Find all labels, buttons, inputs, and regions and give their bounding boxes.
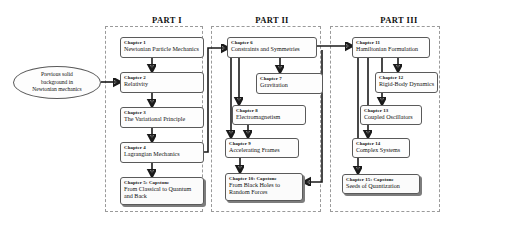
part-title-2: PART II (255, 15, 289, 25)
node-chapter-3[interactable]: Chapter 3 The Variational Principle (120, 107, 204, 128)
node-chapter-4[interactable]: Chapter 4 Lagrangian Mechanics (120, 142, 204, 163)
chapter-3-label: Chapter 3 (124, 110, 200, 116)
chapter-4-title: Lagrangian Mechanics (124, 151, 200, 158)
node-previous-background[interactable]: Previous solid background in Newtonian m… (13, 66, 101, 99)
node-chapter-1[interactable]: Chapter 1 Newtonian Particle Mechanics (120, 37, 204, 58)
chapter-2-title: Relativity (124, 81, 200, 88)
part-title-3: PART III (380, 15, 417, 25)
chapter-7-title: Gravitation (260, 82, 319, 89)
chapter-9-title: Accelerating Frames (229, 147, 295, 154)
chapter-2-label: Chapter 2 (124, 75, 200, 81)
chapter-10-label: Chapter 10: Capstone (229, 176, 299, 182)
node-chapter-8[interactable]: Chapter 8 Electromagnetism (232, 105, 306, 125)
chapter-1-label: Chapter 1 (124, 40, 200, 46)
node-chapter-13[interactable]: Chapter 13 Coupled Oscillators (360, 105, 422, 125)
chapter-8-label: Chapter 8 (236, 108, 302, 114)
node-chapter-5[interactable]: Chapter 5: Capstone From Classical to Qu… (120, 177, 204, 205)
chapter-5-title: From Classical to Quantum and Back (124, 186, 200, 200)
chapter-6-label: Chapter 6 (231, 40, 313, 46)
node-chapter-7[interactable]: Chapter 7 Gravitation (256, 73, 323, 94)
chapter-5-label: Chapter 5: Capstone (124, 180, 200, 186)
chapter-7-label: Chapter 7 (260, 76, 319, 82)
part-title-1: PART I (152, 15, 182, 25)
chapter-6-title: Constraints and Symmetries (231, 46, 313, 53)
chapter-11-title: Hamiltonian Formulation (356, 46, 426, 53)
chapter-11-label: Chapter 11 (356, 40, 426, 46)
chapter-15-label: Chapter 15: Capstone (346, 177, 416, 183)
chapter-12-label: Chapter 12 (379, 75, 434, 81)
chapter-13-label: Chapter 13 (364, 108, 418, 114)
flowchart-canvas: PART I PART II PART III (0, 0, 509, 227)
node-chapter-10[interactable]: Chapter 10: Capstone From Black Holes to… (225, 173, 303, 201)
chapter-9-label: Chapter 9 (229, 141, 295, 147)
entry-line-2: background in (41, 79, 73, 85)
node-chapter-9[interactable]: Chapter 9 Accelerating Frames (225, 138, 299, 158)
chapter-1-title: Newtonian Particle Mechanics (124, 46, 200, 53)
chapter-15-title: Seeds of Quantization (346, 183, 416, 190)
node-chapter-11[interactable]: Chapter 11 Hamiltonian Formulation (352, 37, 430, 58)
chapter-8-title: Electromagnetism (236, 114, 302, 121)
node-chapter-6[interactable]: Chapter 6 Constraints and Symmetries (227, 37, 317, 58)
chapter-12-title: Rigid-Body Dynamics (379, 81, 434, 88)
chapter-3-title: The Variational Principle (124, 116, 200, 123)
chapter-10-title: From Black Holes to Random Forces (229, 182, 299, 196)
node-chapter-12[interactable]: Chapter 12 Rigid-Body Dynamics (375, 72, 438, 93)
node-chapter-15[interactable]: Chapter 15: Capstone Seeds of Quantizati… (342, 174, 420, 194)
node-chapter-2[interactable]: Chapter 2 Relativity (120, 72, 204, 93)
entry-line-1: Previous solid (41, 71, 73, 77)
entry-line-3: Newtonian mechanics (32, 86, 82, 92)
chapter-14-label: Chapter 14 (356, 141, 406, 147)
chapter-14-title: Complex Systems (356, 147, 406, 154)
chapter-13-title: Coupled Oscillators (364, 114, 418, 121)
node-chapter-14[interactable]: Chapter 14 Complex Systems (352, 138, 410, 158)
chapter-4-label: Chapter 4 (124, 145, 200, 151)
